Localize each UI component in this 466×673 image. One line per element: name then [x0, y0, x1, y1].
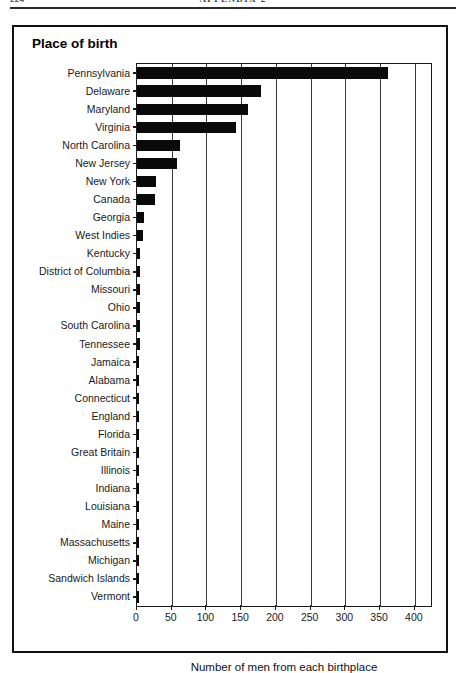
x-axis-ticklabel-0: 0 [133, 611, 139, 623]
bar-row: Indiana [137, 483, 431, 494]
bar-chart-plot-area: PennsylvaniaDelawareMarylandVirginiaNort… [136, 63, 432, 607]
y-axis-label-delaware: Delaware [86, 86, 130, 97]
bar-georgia [137, 212, 144, 223]
x-axis-ticklabel-200: 200 [266, 611, 284, 623]
y-axis-label-west-indies: West Indies [75, 230, 130, 241]
bar-sandwich-islands [137, 573, 139, 584]
bar-new-york [137, 176, 156, 187]
bar-row: Maine [137, 519, 431, 530]
bar-row: West Indies [137, 230, 431, 241]
x-axis-tick-150 [240, 605, 241, 610]
y-axis-label-jamaica: Jamaica [91, 357, 130, 368]
y-axis-label-michigan: Michigan [88, 555, 130, 566]
bar-maine [137, 519, 139, 530]
y-axis-label-massachusetts: Massachusetts [60, 537, 130, 548]
bar-kentucky [137, 248, 140, 259]
bar-indiana [137, 483, 139, 494]
bar-row: New York [137, 176, 431, 187]
x-axis-ticklabel-250: 250 [301, 611, 319, 623]
y-axis-label-england: England [91, 411, 130, 422]
y-axis-label-maine: Maine [101, 519, 130, 530]
bar-virginia [137, 122, 236, 133]
x-axis-ticklabel-400: 400 [405, 611, 423, 623]
bar-connecticut [137, 393, 139, 404]
page-running-head: 224 APPENDIX 2 [0, 0, 466, 14]
bar-row: North Carolina [137, 140, 431, 151]
bar-row: Georgia [137, 212, 431, 223]
bar-massachusetts [137, 537, 139, 548]
y-axis-label-pennsylvania: Pennsylvania [68, 68, 130, 79]
bar-florida [137, 429, 139, 440]
y-axis-label-louisiana: Louisiana [85, 501, 130, 512]
x-axis-ticklabel-350: 350 [370, 611, 388, 623]
x-axis-tick-0 [136, 605, 137, 610]
y-axis-label-tennessee: Tennessee [79, 339, 130, 350]
x-axis-title: Number of men from each birthplace [136, 661, 432, 673]
y-axis-label-maryland: Maryland [87, 104, 130, 115]
bar-west-indies [137, 230, 143, 241]
bar-illinois [137, 465, 139, 476]
x-axis-ticklabel-300: 300 [336, 611, 354, 623]
bar-north-carolina [137, 140, 180, 151]
x-axis-ticklabel-100: 100 [197, 611, 215, 623]
bar-row: Great Britain [137, 447, 431, 458]
bar-row: Florida [137, 429, 431, 440]
bar-row: Pennsylvania [137, 67, 431, 78]
bar-row: Maryland [137, 104, 431, 115]
bar-row: Alabama [137, 375, 431, 386]
x-axis-tick-50 [171, 605, 172, 610]
y-axis-label-sandwich-islands: Sandwich Islands [48, 573, 130, 584]
bar-row: Ohio [137, 302, 431, 313]
bar-pennsylvania [137, 67, 388, 78]
bar-south-carolina [137, 320, 140, 331]
y-axis-label-new-york: New York [86, 176, 130, 187]
bar-louisiana [137, 501, 139, 512]
figure-title: Place of birth [32, 36, 118, 51]
x-axis-tick-300 [344, 605, 345, 610]
x-axis-tick-200 [275, 605, 276, 610]
bar-row: Connecticut [137, 393, 431, 404]
bar-row: District of Columbia [137, 266, 431, 277]
bar-row: Jamaica [137, 356, 431, 367]
y-axis-label-illinois: Illinois [101, 465, 130, 476]
bar-jamaica [137, 356, 139, 367]
bar-delaware [137, 85, 261, 96]
bar-michigan [137, 555, 139, 566]
y-axis-label-district-of-columbia: District of Columbia [39, 266, 130, 277]
y-axis-label-georgia: Georgia [93, 212, 130, 223]
bar-alabama [137, 375, 139, 386]
x-axis-tick-400 [414, 605, 415, 610]
bar-row: Missouri [137, 284, 431, 295]
y-axis-label-new-jersey: New Jersey [75, 158, 130, 169]
y-axis-label-florida: Florida [98, 429, 130, 440]
y-axis-label-ohio: Ohio [108, 302, 130, 313]
header-rule [10, 7, 456, 9]
y-axis-label-vermont: Vermont [91, 591, 130, 602]
bar-row: Sandwich Islands [137, 573, 431, 584]
y-axis-label-indiana: Indiana [96, 483, 130, 494]
x-axis-ticklabel-50: 50 [165, 611, 177, 623]
x-axis-tick-100 [205, 605, 206, 610]
y-axis-label-canada: Canada [93, 194, 130, 205]
running-head-title: APPENDIX 2 [0, 0, 466, 4]
bar-row: Michigan [137, 555, 431, 566]
bar-row: Canada [137, 194, 431, 205]
figure-panel: Place of birth PennsylvaniaDelawareMaryl… [12, 25, 448, 653]
bar-missouri [137, 284, 140, 295]
bar-row: New Jersey [137, 158, 431, 169]
y-axis-label-connecticut: Connecticut [75, 393, 130, 404]
bar-new-jersey [137, 158, 177, 169]
y-axis-label-great-britain: Great Britain [71, 447, 130, 458]
bar-row: Vermont [137, 591, 431, 602]
bar-row: South Carolina [137, 320, 431, 331]
bar-maryland [137, 104, 248, 115]
bar-great-britain [137, 447, 139, 458]
bar-district-of-columbia [137, 266, 140, 277]
bar-row: Massachusetts [137, 537, 431, 548]
y-axis-label-kentucky: Kentucky [87, 248, 130, 259]
bar-tennessee [137, 338, 140, 349]
bar-row: Tennessee [137, 338, 431, 349]
bar-england [137, 411, 139, 422]
bar-row: Illinois [137, 465, 431, 476]
bar-vermont [137, 591, 139, 602]
